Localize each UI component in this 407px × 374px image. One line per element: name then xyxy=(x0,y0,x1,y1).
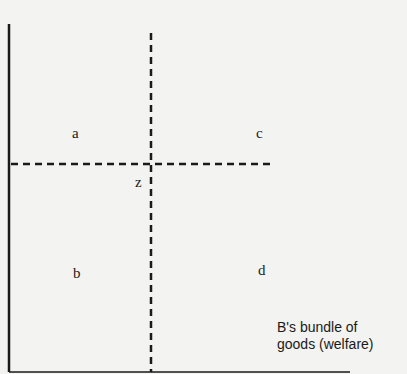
center-point-label-z: z xyxy=(135,175,142,190)
x-axis-label: B's bundle of goods (welfare) xyxy=(277,319,374,353)
diagram-lines xyxy=(0,0,407,374)
welfare-diagram: a c z b d B's bundle of goods (welfare) xyxy=(0,0,407,374)
x-axis-label-line1: B's bundle of xyxy=(277,319,374,336)
x-axis-label-line2: goods (welfare) xyxy=(277,336,374,353)
quadrant-label-a: a xyxy=(72,126,79,141)
quadrant-label-b: b xyxy=(73,266,81,281)
quadrant-label-d: d xyxy=(258,263,266,278)
quadrant-label-c: c xyxy=(256,126,263,141)
